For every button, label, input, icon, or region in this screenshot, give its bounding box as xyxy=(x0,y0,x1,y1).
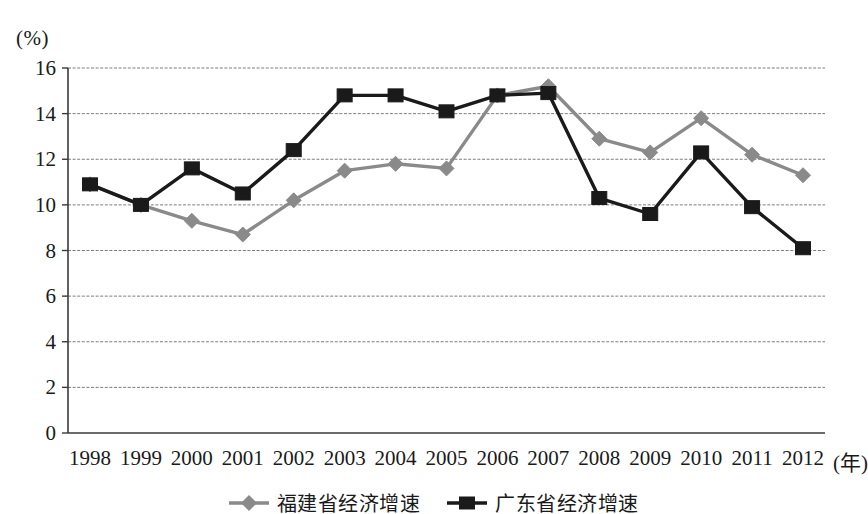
x-axis-tick-label: 2011 xyxy=(731,446,772,471)
data-point-marker xyxy=(439,105,454,118)
legend-item-2: 广东省经济增速 xyxy=(446,488,639,514)
y-axis-tick-label: 0 xyxy=(10,421,56,446)
x-axis-tick-label: 2009 xyxy=(629,446,671,471)
data-point-marker xyxy=(337,89,352,102)
data-point-marker xyxy=(235,187,250,200)
x-axis-tick-label: 2002 xyxy=(273,446,315,471)
data-point-marker xyxy=(490,89,505,102)
legend-label: 福建省经济增速 xyxy=(277,488,421,514)
data-point-marker xyxy=(184,162,199,175)
y-axis-tick-label: 8 xyxy=(10,238,56,263)
x-axis-tick-label: 2003 xyxy=(324,446,366,471)
x-axis-tick-label: 2010 xyxy=(680,446,722,471)
chart-legend: 福建省经济增速广东省经济增速 xyxy=(0,488,866,514)
x-axis-tick-label: 2012 xyxy=(782,446,824,471)
x-axis-tick-label: 2006 xyxy=(476,446,518,471)
data-point-marker xyxy=(643,208,658,221)
x-axis-unit-label: (年) xyxy=(833,446,868,476)
x-axis-tick-label: 1998 xyxy=(69,446,111,471)
data-point-marker xyxy=(83,178,98,191)
gridlines xyxy=(68,68,825,433)
y-axis-tick-label: 6 xyxy=(10,284,56,309)
legend-item-1: 福建省经济增速 xyxy=(228,488,421,514)
x-axis-tick-label: 2001 xyxy=(222,446,264,471)
data-point-marker xyxy=(541,87,556,100)
x-axis-tick-label: 2004 xyxy=(375,446,417,471)
x-axis-tick-label: 2000 xyxy=(171,446,213,471)
data-point-marker xyxy=(592,192,607,205)
y-axis-tick-label: 12 xyxy=(10,147,56,172)
y-axis-tick-label: 4 xyxy=(10,329,56,354)
x-axis-tick-label: 1999 xyxy=(120,446,162,471)
data-point-marker xyxy=(133,198,148,211)
y-axis-tick-label: 2 xyxy=(10,375,56,400)
data-point-marker xyxy=(694,146,709,159)
y-axis-tick-label: 14 xyxy=(10,101,56,126)
x-axis-tick-label: 2007 xyxy=(527,446,569,471)
legend-label: 广东省经济增速 xyxy=(495,488,639,514)
data-point-marker xyxy=(286,144,301,157)
data-point-marker xyxy=(388,156,403,171)
legend-square-marker-icon xyxy=(446,494,488,512)
data-point-marker xyxy=(337,163,352,178)
data-point-marker xyxy=(388,89,403,102)
x-axis-tick-label: 2008 xyxy=(578,446,620,471)
legend-diamond-marker-icon xyxy=(228,494,270,512)
data-point-marker xyxy=(796,242,811,255)
y-axis-tick-label: 16 xyxy=(10,56,56,81)
data-point-marker xyxy=(184,213,199,228)
x-axis-tick-label: 2005 xyxy=(426,446,468,471)
data-point-marker xyxy=(796,168,811,183)
y-axis-tick-label: 10 xyxy=(10,192,56,217)
data-point-marker xyxy=(745,201,760,214)
series-layer xyxy=(83,79,811,255)
